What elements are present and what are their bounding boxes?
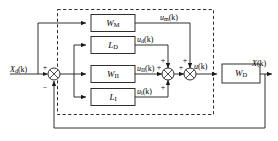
sign-inner-left-plus: +	[157, 63, 162, 72]
block-diagram-svg: WM LD WII LI WD	[0, 0, 278, 141]
error-summing-junction	[48, 68, 60, 80]
sign-outer-left-plus: +	[179, 63, 184, 72]
label-xd: Xd(k)	[9, 65, 28, 74]
sign-input-plus: +	[43, 63, 48, 72]
sign-inner-top-plus: +	[161, 56, 166, 65]
label-ui: ui(k)	[137, 87, 152, 96]
block-diagram-canvas: WM LD WII LI WD	[0, 0, 278, 141]
label-uii: uII(k)	[137, 64, 155, 73]
sign-inner-bottom-plus: +	[161, 83, 166, 92]
inner-summing-junction	[162, 68, 174, 80]
label-u: u(k)	[194, 62, 208, 71]
label-ud: ud(k)	[137, 35, 154, 44]
label-um: um(k)	[160, 13, 178, 22]
sign-feedback-minus: −	[43, 83, 48, 92]
sign-outer-top-plus: +	[183, 56, 188, 65]
label-x-out: X(k)	[251, 59, 267, 68]
